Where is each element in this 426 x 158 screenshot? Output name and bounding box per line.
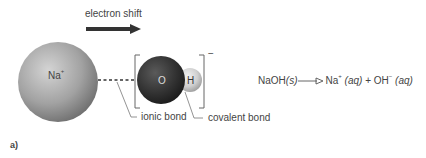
covalent-bond-leader (185, 92, 203, 118)
hydrogen-label: H (187, 75, 194, 86)
electron-shift-label: electron shift (85, 8, 142, 19)
sodium-label: Na+ (48, 70, 64, 81)
panel-label: a) (10, 140, 18, 150)
ionic-bond-label: ionic bond (141, 111, 187, 122)
electron-shift-arrow-icon (86, 24, 141, 34)
dissociation-equation: NaOH(s)Na+ (aq) + OH− (aq) (258, 75, 413, 87)
reaction-arrow-icon (298, 76, 324, 87)
oxygen-label: O (158, 75, 166, 86)
ionic-bond-leader (117, 82, 137, 117)
ion-charge-label: − (208, 48, 214, 59)
sodium-ion-sphere (18, 42, 98, 122)
covalent-bond-label: covalent bond (208, 112, 270, 123)
